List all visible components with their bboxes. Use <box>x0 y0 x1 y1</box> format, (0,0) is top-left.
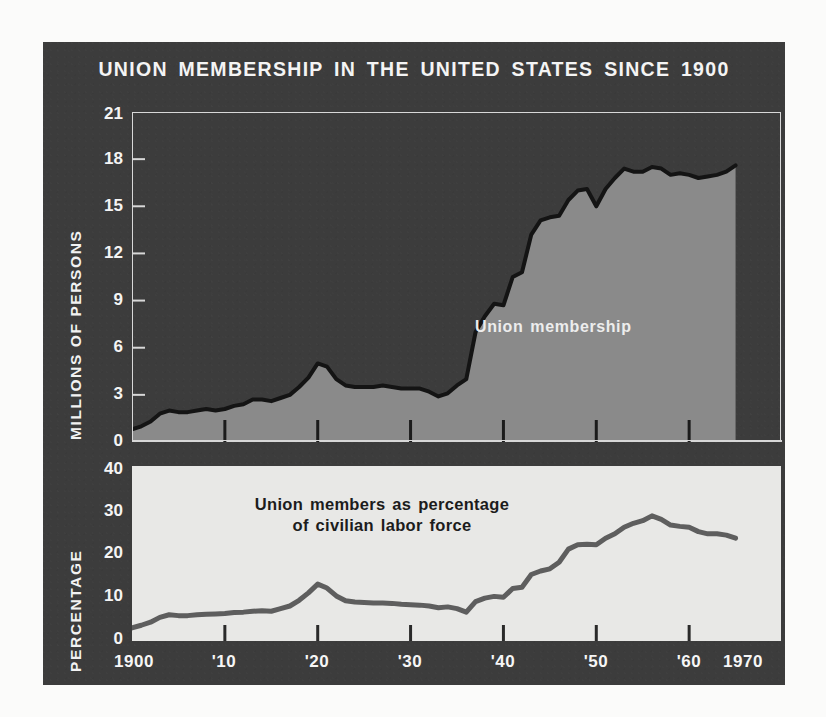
bottom-ytick-10: 10 <box>89 587 123 604</box>
bottom-chart-area: Union members as percentage of civilian … <box>132 466 782 642</box>
top-ytick-12: 12 <box>89 244 123 261</box>
top-ytick-3: 3 <box>89 385 123 402</box>
top-ytick-6: 6 <box>89 338 123 355</box>
xtick-1900: 1900 <box>94 652 174 672</box>
bottom-series-annotation-line2: of civilian labor force <box>192 515 572 536</box>
bottom-chart-ylabel: PERCENTAGE <box>67 482 85 672</box>
top-ytick-0: 0 <box>89 432 123 449</box>
chart-panel: UNION MEMBERSHIP IN THE UNITED STATES SI… <box>43 42 785 685</box>
top-ytick-15: 15 <box>89 197 123 214</box>
top-ytick-21: 21 <box>89 105 123 122</box>
xtick-1930: '30 <box>370 652 450 672</box>
bottom-series-annotation: Union members as percentage of civilian … <box>192 494 572 536</box>
page-title: UNION MEMBERSHIP IN THE UNITED STATES SI… <box>43 58 785 81</box>
top-ytick-18: 18 <box>89 150 123 167</box>
bottom-ytick-20: 20 <box>89 544 123 561</box>
top-chart-area <box>132 112 782 442</box>
top-chart-ylabel: MILLIONS OF PERSONS <box>67 190 85 440</box>
bottom-ytick-40: 40 <box>89 460 123 477</box>
bottom-chart-svg <box>132 466 782 642</box>
bottom-series-annotation-line1: Union members as percentage <box>192 494 572 515</box>
bottom-ytick-30: 30 <box>89 502 123 519</box>
top-ytick-9: 9 <box>89 291 123 308</box>
top-series-annotation: Union membership <box>475 318 632 336</box>
xtick-1940: '40 <box>463 652 543 672</box>
xtick-1950: '50 <box>556 652 636 672</box>
xtick-1970: 1970 <box>703 652 783 672</box>
top-plot-frame <box>132 112 781 441</box>
xtick-1920: '20 <box>277 652 357 672</box>
bottom-ytick-0: 0 <box>89 630 123 647</box>
xtick-1910: '10 <box>184 652 264 672</box>
poster-page: UNION MEMBERSHIP IN THE UNITED STATES SI… <box>0 0 826 717</box>
